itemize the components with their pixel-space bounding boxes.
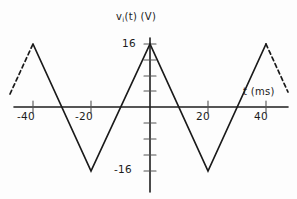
waveform-continuation-right bbox=[266, 44, 288, 92]
x-tick-label-minus20: -20 bbox=[75, 110, 93, 122]
y-axis-label: vi(t) (V) bbox=[116, 11, 156, 24]
y-tick-label-minus16: -16 bbox=[114, 163, 132, 175]
x-axis-label: t (ms) bbox=[243, 86, 275, 97]
y-axis-label-rest: (t) (V) bbox=[124, 11, 156, 22]
x-tick-label-plus20: 20 bbox=[196, 110, 210, 122]
x-tick-label-minus40: -40 bbox=[17, 110, 35, 122]
chart-container: vi(t) (V) t (ms) 16 -16 -40 -20 20 40 bbox=[0, 0, 297, 199]
waveform-continuation-left bbox=[10, 44, 33, 94]
x-tick-label-plus40: 40 bbox=[254, 110, 268, 122]
y-tick-label-plus16: 16 bbox=[122, 37, 136, 49]
chart-plot-area bbox=[0, 0, 297, 199]
